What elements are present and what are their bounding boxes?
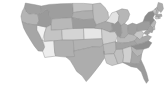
us-choropleth-map xyxy=(0,0,167,102)
state-AZ[interactable] xyxy=(43,40,56,57)
state-NM[interactable] xyxy=(54,40,75,57)
state-MA[interactable] xyxy=(156,14,162,17)
state-CO[interactable] xyxy=(62,28,84,40)
states-layer xyxy=(21,2,163,83)
state-DC[interactable] xyxy=(148,32,149,34)
state-WY[interactable] xyxy=(51,18,73,31)
us-map-svg xyxy=(0,0,167,102)
state-KS[interactable] xyxy=(84,28,103,39)
state-CT[interactable] xyxy=(155,17,159,19)
